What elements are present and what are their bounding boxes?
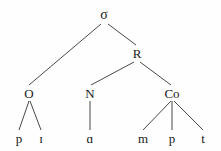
tree-node-seg-p2: p bbox=[169, 132, 176, 145]
tree-branch-coda-to-seg-m bbox=[143, 101, 171, 130]
syllable-tree-diagram: σORNCopɪɑmpt bbox=[0, 0, 221, 151]
tree-node-onset: O bbox=[24, 87, 33, 100]
tree-node-rhyme: R bbox=[133, 47, 142, 60]
tree-branch-rhyme-to-coda bbox=[140, 62, 171, 85]
tree-node-seg-i: ɪ bbox=[39, 132, 43, 145]
tree-node-seg-p1: p bbox=[16, 132, 23, 145]
tree-node-seg-m: m bbox=[138, 132, 148, 145]
tree-node-seg-a: ɑ bbox=[87, 132, 94, 145]
tree-branch-sigma-to-onset bbox=[29, 24, 101, 85]
tree-node-sigma: σ bbox=[100, 8, 108, 22]
tree-branch-sigma-to-rhyme bbox=[108, 24, 136, 45]
tree-branches bbox=[0, 0, 221, 151]
tree-branch-rhyme-to-nucleus bbox=[91, 62, 134, 85]
tree-node-seg-t: t bbox=[201, 132, 205, 145]
tree-node-coda: Co bbox=[164, 87, 179, 100]
tree-branch-onset-to-seg-i bbox=[30, 101, 41, 130]
tree-node-nucleus: N bbox=[85, 87, 94, 100]
tree-branch-onset-to-seg-p1 bbox=[19, 101, 29, 130]
tree-branch-coda-to-seg-t bbox=[174, 101, 203, 130]
